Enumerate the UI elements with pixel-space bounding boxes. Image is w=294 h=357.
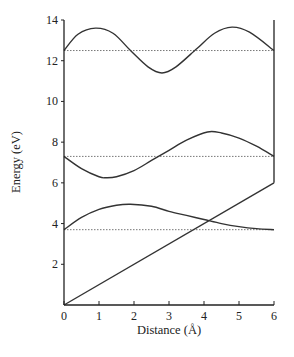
series-linear-potential — [64, 183, 274, 305]
curves — [64, 27, 274, 305]
x-axis-title: Distance (Å) — [137, 323, 201, 337]
axes — [64, 20, 274, 305]
y-tick-label: 14 — [46, 13, 58, 27]
x-tick-label: 3 — [166, 309, 172, 323]
x-tick-label: 2 — [131, 309, 137, 323]
y-ticks: 2468101214 — [46, 13, 64, 271]
x-tick-label: 5 — [236, 309, 242, 323]
x-tick-label: 6 — [271, 309, 277, 323]
y-tick-label: 2 — [52, 257, 58, 271]
x-tick-label: 4 — [201, 309, 207, 323]
x-ticks: 0123456 — [61, 301, 277, 323]
y-tick-label: 12 — [46, 54, 58, 68]
series-band-1 — [64, 204, 274, 229]
y-tick-label: 10 — [46, 94, 58, 108]
energy-distance-chart: 0123456 2468101214 Distance (Å) Energy (… — [0, 0, 294, 357]
series-band-2 — [64, 131, 274, 177]
y-axis-title: Energy (eV) — [9, 131, 23, 193]
x-tick-label: 0 — [61, 309, 67, 323]
y-tick-label: 6 — [52, 176, 58, 190]
series-band-3 — [64, 27, 274, 73]
y-tick-label: 8 — [52, 135, 58, 149]
y-tick-label: 4 — [52, 217, 58, 231]
x-tick-label: 1 — [96, 309, 102, 323]
